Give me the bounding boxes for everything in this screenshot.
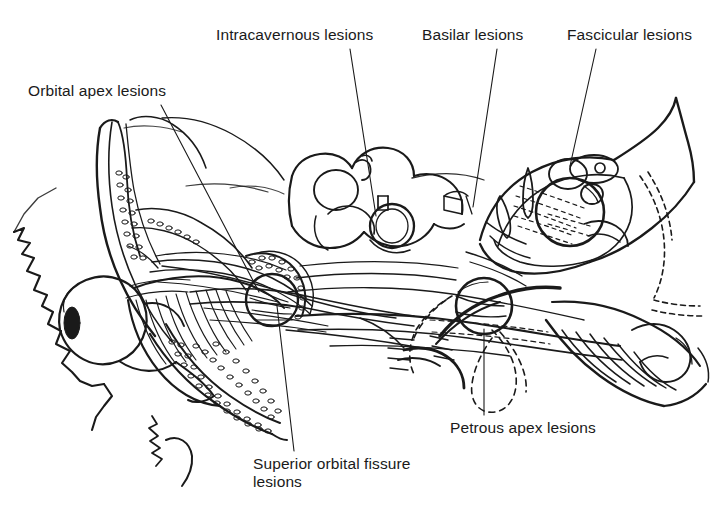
orbital-roof (97, 117, 284, 342)
leader-basilar (473, 49, 497, 207)
skull-base-contour (186, 174, 484, 214)
label-petrous-apex-lesions: Petrous apex lesions (450, 419, 596, 437)
leader-superior-orbital-fissure (277, 306, 294, 451)
leader-orbital-apex (161, 105, 259, 292)
figure-container: Orbital apex lesions Intracavernous lesi… (0, 0, 721, 512)
label-basilar-lesions: Basilar lesions (422, 26, 523, 44)
leader-fascicular (570, 49, 596, 166)
cavernous-sinus (289, 148, 464, 250)
brainstem-section (480, 98, 694, 274)
dura-border-dash (640, 172, 702, 316)
label-intracavernous-lesions: Intracavernous lesions (216, 26, 373, 44)
dashed-nerve-course (410, 296, 526, 412)
lower-lid-suture (149, 416, 192, 486)
label-superior-orbital-fissure-lesions: Superior orbital fissure lesions (253, 455, 410, 491)
anatomical-line-art (0, 0, 721, 512)
pupil (64, 307, 80, 339)
leader-lines (161, 49, 596, 451)
inferior-bone-marrow (169, 340, 281, 433)
leader-intracavernous (350, 49, 376, 216)
label-orbital-apex-lesions: Orbital apex lesions (28, 82, 166, 100)
label-fascicular-lesions: Fascicular lesions (567, 26, 692, 44)
